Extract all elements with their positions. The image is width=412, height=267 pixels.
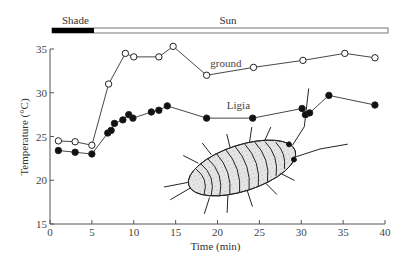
data-point	[170, 43, 176, 49]
data-point	[55, 147, 61, 153]
temperature-chart: ShadeSun 15202530350510152025303540Time …	[0, 0, 412, 267]
x-tick-label: 0	[47, 226, 53, 238]
data-point	[299, 105, 305, 111]
data-point	[105, 81, 111, 87]
data-point	[72, 139, 78, 145]
data-point	[249, 115, 255, 121]
condition-label-sun: Sun	[219, 14, 237, 26]
data-point	[122, 50, 128, 56]
y-axis-title: Temperature (°C)	[18, 98, 31, 176]
data-point	[89, 142, 95, 148]
data-point	[148, 109, 154, 115]
data-point	[108, 127, 114, 133]
data-point	[131, 54, 137, 60]
series-label-ground: ground	[210, 57, 242, 69]
data-point	[372, 55, 378, 61]
data-point	[306, 110, 312, 116]
x-tick-label: 30	[296, 226, 308, 238]
x-tick-label: 10	[128, 226, 140, 238]
x-tick-label: 5	[89, 226, 95, 238]
data-point	[120, 117, 126, 123]
y-tick-label: 15	[36, 218, 48, 230]
data-point	[130, 115, 136, 121]
x-axis-title: Time (min)	[190, 240, 240, 253]
shade-sun-bar: ShadeSun	[52, 14, 388, 33]
series-line	[58, 95, 375, 154]
data-point	[156, 54, 162, 60]
data-point	[203, 115, 209, 121]
condition-bar-outline	[52, 28, 388, 33]
y-tick-label: 20	[36, 174, 48, 186]
x-tick-label: 25	[254, 226, 266, 238]
x-tick-label: 20	[212, 226, 224, 238]
data-point	[250, 64, 256, 70]
data-point	[300, 57, 306, 63]
y-tick-label: 35	[36, 43, 48, 55]
series-label-ligia: Ligia	[227, 99, 250, 111]
data-point	[203, 72, 209, 78]
isopod-illustration	[149, 82, 357, 230]
y-tick-label: 30	[36, 87, 48, 99]
data-point	[342, 50, 348, 56]
data-point	[55, 138, 61, 144]
data-point	[156, 107, 162, 113]
x-tick-label: 40	[380, 226, 392, 238]
data-point	[111, 120, 117, 126]
data-point	[372, 102, 378, 108]
condition-segment-shade	[52, 28, 94, 33]
x-tick-label: 15	[170, 226, 182, 238]
y-tick-label: 25	[36, 131, 48, 143]
data-point	[164, 103, 170, 109]
data-point	[326, 92, 332, 98]
condition-label-shade: Shade	[62, 14, 89, 26]
x-tick-label: 35	[338, 226, 350, 238]
series-layer: groundLigia	[55, 43, 378, 157]
data-point	[72, 149, 78, 155]
data-point	[89, 151, 95, 157]
